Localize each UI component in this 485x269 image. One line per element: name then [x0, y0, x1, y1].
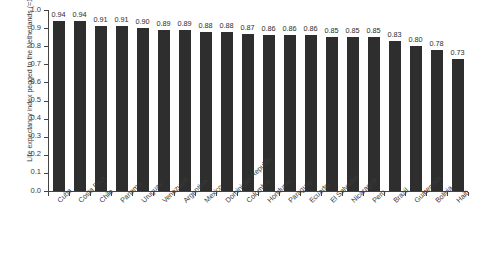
y-axis-tick-label: 0.4 [30, 113, 41, 122]
bar-value-label: 0.86 [258, 25, 279, 33]
y-axis-tick-label: 0.5 [30, 95, 41, 104]
y-axis-tick: 0.4 [0, 119, 48, 120]
bar-slot[interactable]: 0.91 [90, 10, 111, 191]
bar-slot[interactable]: 0.86 [279, 10, 300, 191]
bar[interactable] [326, 37, 338, 191]
bar-value-label: 0.88 [195, 22, 216, 30]
y-axis-tick-label: 0.7 [30, 59, 41, 68]
bar-slot[interactable]: 0.85 [321, 10, 342, 191]
x-axis-tick-mark [111, 192, 112, 196]
bar-slot[interactable]: 0.85 [363, 10, 384, 191]
bar-slot[interactable]: 0.78 [426, 10, 447, 191]
bar-slot[interactable]: 0.86 [300, 10, 321, 191]
x-axis-tick-mark [405, 192, 406, 196]
bar[interactable] [347, 37, 359, 191]
bar-slot[interactable]: 0.88 [216, 10, 237, 191]
y-axis-tick: 0.2 [0, 155, 48, 156]
bar[interactable] [74, 21, 86, 191]
x-axis-tick-mark [468, 192, 469, 196]
bar-slot[interactable]: 0.94 [48, 10, 69, 191]
bar-value-label: 0.94 [48, 11, 69, 19]
x-axis-tick-mark [300, 192, 301, 196]
x-axis-tick-mark [90, 192, 91, 196]
bar-value-label: 0.87 [237, 24, 258, 32]
y-axis-tick: 0.0 [0, 191, 48, 192]
bar[interactable] [53, 21, 65, 191]
y-axis-tick-label: 1.0 [30, 5, 41, 14]
x-axis-tick-mark [69, 192, 70, 196]
bar-slot[interactable]: 0.83 [384, 10, 405, 191]
bar[interactable] [116, 26, 128, 191]
bar-value-label: 0.90 [132, 18, 153, 26]
bar[interactable] [452, 59, 464, 191]
bar-value-label: 0.85 [363, 27, 384, 35]
bar-value-label: 0.88 [216, 22, 237, 30]
bar[interactable] [95, 26, 107, 191]
bar[interactable] [410, 46, 422, 191]
bar-value-label: 0.83 [384, 31, 405, 39]
x-axis-tick-mark [48, 192, 49, 196]
bar-value-label: 0.80 [405, 36, 426, 44]
x-axis-tick-mark [132, 192, 133, 196]
bar-value-label: 0.89 [174, 20, 195, 28]
bar-slot[interactable]: 0.90 [132, 10, 153, 191]
y-axis-tick-label: 0.8 [30, 41, 41, 50]
y-axis-tick-label: 0.2 [30, 149, 41, 158]
bar-value-label: 0.86 [300, 25, 321, 33]
bar-slot[interactable]: 0.73 [447, 10, 468, 191]
x-axis-tick-mark [237, 192, 238, 196]
bar[interactable] [137, 28, 149, 191]
x-axis-tick-mark [363, 192, 364, 196]
bar[interactable] [368, 37, 380, 191]
x-axis-tick-mark [321, 192, 322, 196]
y-axis-tick-label: 0.0 [30, 186, 41, 195]
y-axis-tick: 0.3 [0, 137, 48, 138]
bar[interactable] [179, 30, 191, 191]
y-axis-tick-label: 0.1 [30, 167, 41, 176]
x-axis-tick-mark [153, 192, 154, 196]
x-axis-tick-mark [195, 192, 196, 196]
x-axis-tick-mark [258, 192, 259, 196]
bar[interactable] [158, 30, 170, 191]
bar-value-label: 0.85 [342, 27, 363, 35]
x-axis-tick-mark [216, 192, 217, 196]
bar[interactable] [221, 32, 233, 191]
y-axis-tick-label: 0.9 [30, 23, 41, 32]
y-axis-tick: 0.6 [0, 82, 48, 83]
x-axis-tick-mark [384, 192, 385, 196]
bar-value-label: 0.91 [90, 16, 111, 24]
x-axis-tick-mark [447, 192, 448, 196]
y-axis-tick: 0.5 [0, 101, 48, 102]
bar[interactable] [200, 32, 212, 191]
bar-slot[interactable]: 0.85 [342, 10, 363, 191]
y-axis-tick: 0.9 [0, 28, 48, 29]
bar-value-label: 0.73 [447, 49, 468, 57]
bar-value-label: 0.78 [426, 40, 447, 48]
y-axis-tick: 1.0 [0, 10, 48, 11]
bar[interactable] [242, 34, 254, 191]
bar[interactable] [284, 35, 296, 191]
x-axis-tick-mark [426, 192, 427, 196]
y-axis-tick: 0.8 [0, 46, 48, 47]
bar-slot[interactable]: 0.94 [69, 10, 90, 191]
bar-slot[interactable]: 0.88 [195, 10, 216, 191]
bar-slot[interactable]: 0.89 [153, 10, 174, 191]
bar-slot[interactable]: 0.80 [405, 10, 426, 191]
bar-slot[interactable]: 0.91 [111, 10, 132, 191]
bar-value-label: 0.89 [153, 20, 174, 28]
y-axis-tick-label: 0.3 [30, 131, 41, 140]
bar-value-label: 0.94 [69, 11, 90, 19]
x-axis-tick-mark [342, 192, 343, 196]
bar-slot[interactable]: 0.87 [237, 10, 258, 191]
x-axis-tick-mark [174, 192, 175, 196]
bar[interactable] [431, 50, 443, 191]
bar-slot[interactable]: 0.89 [174, 10, 195, 191]
bar-value-label: 0.86 [279, 25, 300, 33]
bar-value-label: 0.85 [321, 27, 342, 35]
x-axis-tick-mark [279, 192, 280, 196]
bar-value-label: 0.91 [111, 16, 132, 24]
bar[interactable] [389, 41, 401, 191]
bar[interactable] [305, 35, 317, 191]
y-axis-tick: 0.7 [0, 64, 48, 65]
life-expectancy-bar-chart: Life expectancy index pegged to the Neth… [0, 0, 485, 269]
